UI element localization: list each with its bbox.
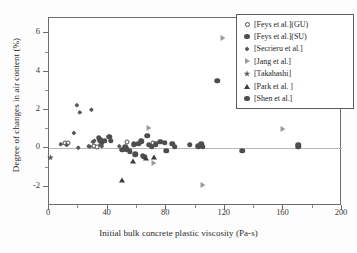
y-axis-minor-tick <box>45 52 48 53</box>
data-point <box>133 151 139 157</box>
legend-item-label: [Shen et al.] <box>254 94 292 103</box>
y-axis-tick <box>43 71 48 72</box>
y-axis-minor-tick <box>45 167 48 168</box>
data-point <box>295 142 301 148</box>
x-axis-title: Initial bulk concrete plastic viscosity … <box>0 228 357 238</box>
data-point <box>143 156 149 161</box>
legend-item[interactable]: [Takahashi] <box>240 68 349 80</box>
x-axis-tick-label: 120 <box>204 207 244 217</box>
data-point <box>172 144 178 150</box>
data-point <box>152 160 157 166</box>
data-point <box>119 177 125 182</box>
data-point <box>108 138 114 144</box>
scatter-chart-figure: 6420-204080120160200 Initial bulk concre… <box>0 0 357 253</box>
open-circle-icon <box>240 22 254 27</box>
up-triangle-icon <box>240 84 254 89</box>
data-point <box>187 142 193 148</box>
data-point <box>139 138 145 144</box>
star-icon <box>240 70 254 77</box>
legend-item-label: [Jang et al.] <box>254 57 291 66</box>
data-point <box>71 131 76 136</box>
legend-item[interactable]: [Jang et al.] <box>240 55 349 67</box>
data-point <box>281 126 286 132</box>
y-axis-tick <box>43 32 48 33</box>
x-axis-minor-tick <box>312 205 313 208</box>
legend-item[interactable]: [Feys et al.](SU) <box>240 30 349 42</box>
data-point <box>215 78 221 84</box>
data-point <box>127 149 133 155</box>
legend-item-label: [Feys et al.](GU) <box>254 20 308 29</box>
x-axis-tick-label: 80 <box>145 207 185 217</box>
legend-item[interactable]: [Secrieru et al.] <box>240 43 349 55</box>
legend-item[interactable]: [Feys et al.](GU) <box>240 18 349 30</box>
data-point <box>124 139 129 144</box>
y-axis-minor-tick <box>45 90 48 91</box>
legend-item-label: [Secrieru et al.] <box>254 44 303 53</box>
data-point <box>47 154 54 161</box>
data-point <box>221 35 226 41</box>
y-axis-title: Degree of changes in air content (%) <box>11 15 21 195</box>
data-point <box>77 110 82 115</box>
x-axis-minor-tick <box>136 205 137 208</box>
x-axis-minor-tick <box>253 205 254 208</box>
y-axis-tick <box>43 186 48 187</box>
data-point <box>151 154 157 159</box>
data-point <box>89 107 94 112</box>
legend-item-label: [Feys et al.](SU) <box>254 32 307 41</box>
y-axis-minor-tick <box>45 128 48 129</box>
data-point <box>200 144 206 150</box>
filled-circle-icon <box>240 96 254 102</box>
x-axis-tick-label: 200 <box>321 207 357 217</box>
data-point <box>74 103 79 108</box>
x-axis-minor-tick <box>195 205 196 208</box>
y-axis-tick <box>43 109 48 110</box>
legend-item-label: [Takahashi] <box>254 69 291 78</box>
data-point <box>200 182 205 188</box>
data-point <box>162 140 168 146</box>
data-point <box>163 148 169 154</box>
x-axis-tick-label: 0 <box>28 207 68 217</box>
right-triangle-icon <box>240 58 254 64</box>
x-axis-tick-label: 160 <box>262 207 302 217</box>
legend-item-label: [Park et al. ] <box>254 82 293 91</box>
data-point <box>144 133 150 139</box>
chart-legend: [Feys et al.](GU)[Feys et al.](SU)[Secri… <box>236 14 354 109</box>
legend-item[interactable]: [Shen et al.] <box>240 92 349 104</box>
legend-item[interactable]: [Park et al. ] <box>240 80 349 92</box>
y-axis-tick <box>43 147 48 148</box>
x-axis-minor-tick <box>77 205 78 208</box>
data-point <box>240 148 246 154</box>
data-point <box>146 125 151 131</box>
diamond-icon <box>240 46 254 51</box>
data-point <box>130 159 136 164</box>
filled-circle-icon <box>240 34 254 40</box>
x-axis-tick-label: 40 <box>87 207 127 217</box>
